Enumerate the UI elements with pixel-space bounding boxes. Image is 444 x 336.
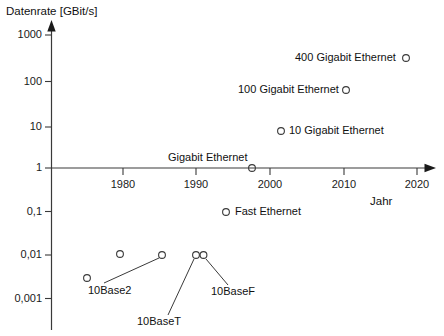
x-axis <box>52 164 437 172</box>
point-label-10base2: 10Base2 <box>88 285 131 296</box>
y-tick-label-0-001: 0,001 <box>0 293 42 304</box>
marker-10base2 <box>117 251 124 258</box>
x-tick-label-1990: 1990 <box>176 179 216 190</box>
marker-100-gigabit-ethernet <box>343 87 350 94</box>
marker-fast-ethernet <box>223 209 230 216</box>
point-label-100-gigabit-ethernet: 100 Gigabit Ethernet <box>238 84 339 95</box>
y-tick-label-10: 10 <box>0 121 42 132</box>
y-tick-label-100: 100 <box>0 76 42 87</box>
ethernet-datarate-chart: Datenrate [GBit/s] Jahr 1000 100 10 1 0,… <box>0 0 444 336</box>
y-axis-title: Datenrate [GBit/s] <box>6 6 97 18</box>
x-tick-label-2010: 2010 <box>324 179 364 190</box>
marker-400-gigabit-ethernet <box>403 55 410 62</box>
point-label-10baset: 10BaseT <box>137 316 181 327</box>
point-label-400-gigabit-ethernet: 400 Gigabit Ethernet <box>295 52 396 63</box>
marker-10basef <box>200 252 207 259</box>
y-tick-label-0-01: 0,01 <box>0 249 42 260</box>
y-tick-label-0-1: 0,1 <box>0 206 42 217</box>
y-tick-label-1000: 1000 <box>0 29 42 40</box>
point-label-10basef: 10BaseF <box>211 286 255 297</box>
marker-10-gigabit-ethernet <box>278 128 285 135</box>
leader-10baset <box>168 259 194 315</box>
x-axis-ticks <box>123 168 417 175</box>
x-tick-label-1980: 1980 <box>103 179 143 190</box>
leader-10base2 <box>104 258 159 283</box>
x-tick-label-2000: 2000 <box>250 179 290 190</box>
x-tick-label-2020: 2020 <box>397 179 437 190</box>
point-label-gigabit-ethernet: Gigabit Ethernet <box>168 152 248 163</box>
x-axis-title: Jahr <box>370 196 392 208</box>
y-axis <box>47 20 55 330</box>
y-tick-label-1: 1 <box>0 162 42 173</box>
marker-10baset-b <box>193 252 200 259</box>
point-label-10-gigabit-ethernet: 10 Gigabit Ethernet <box>289 125 384 136</box>
marker-10baset-a <box>159 252 166 259</box>
leader-10basef <box>206 259 228 285</box>
point-label-fast-ethernet: Fast Ethernet <box>235 206 301 217</box>
y-axis-ticks <box>45 35 52 299</box>
marker-10base5 <box>84 275 91 282</box>
